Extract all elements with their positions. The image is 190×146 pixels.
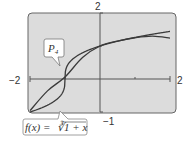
fx-label: f(x) =	[25, 121, 50, 134]
y-max-label: 2	[95, 1, 101, 12]
y-min-label: −1	[103, 116, 115, 127]
x-min-label: −2	[9, 75, 21, 86]
x-max-label: 2	[177, 75, 183, 86]
chart: 2 −2 2 −1 P4 f(x) = ∛1 + x	[0, 0, 190, 146]
plot-area	[28, 13, 176, 113]
fx-callout: f(x) = ∛1 + x	[23, 111, 87, 135]
